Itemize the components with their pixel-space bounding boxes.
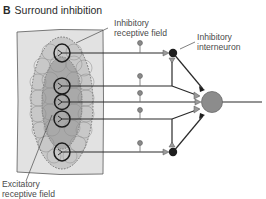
label-inhibitory-interneuron: Inhibitory interneuron	[197, 32, 240, 52]
inhibitory-interneuron-bottom	[169, 148, 177, 156]
label-inhibitory-receptive-field: Inhibitory receptive field	[114, 18, 167, 38]
inhibitory-interneuron-top	[169, 49, 177, 57]
output-neuron	[202, 92, 223, 113]
label-excitatory-receptive-field: Excitatory receptive field	[2, 179, 55, 199]
collateral-knobs	[138, 41, 143, 152]
